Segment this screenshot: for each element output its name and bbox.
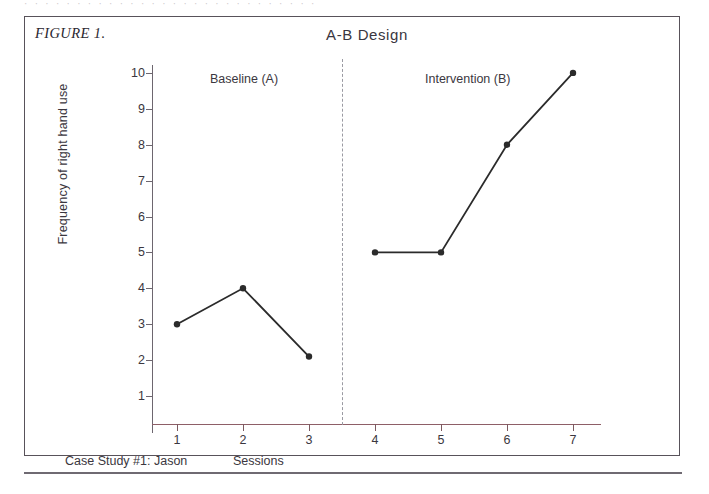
- series-line-baseline: [177, 288, 309, 356]
- series-line-intervention: [375, 73, 573, 253]
- data-point: [240, 285, 246, 291]
- data-point: [438, 249, 444, 255]
- plot-area: Frequency of right hand use 12345678910 …: [25, 17, 681, 457]
- data-point: [306, 353, 312, 359]
- figure-box: FIGURE 1. A-B Design Frequency of right …: [24, 16, 680, 456]
- footnote-case-study: Case Study #1: Jason: [65, 454, 187, 468]
- data-series-svg: [25, 17, 681, 457]
- data-point: [174, 321, 180, 327]
- data-point: [504, 142, 510, 148]
- data-point: [570, 70, 576, 76]
- data-point-markers: [174, 70, 576, 360]
- footnote-sessions: Sessions: [233, 454, 284, 468]
- scan-top-cut-text: · · · · · · · · · · · · · · · · · · · · …: [24, 0, 684, 10]
- data-point: [372, 249, 378, 255]
- bottom-rule: [24, 472, 682, 474]
